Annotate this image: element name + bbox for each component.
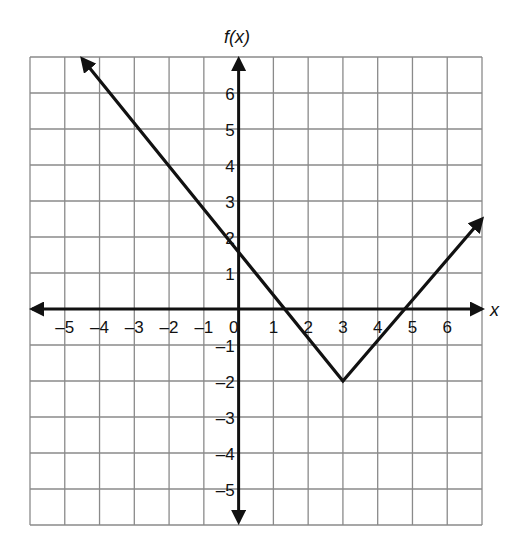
y-tick-label: 1 <box>225 265 234 284</box>
x-tick-label: 4 <box>373 318 382 337</box>
x-tick-label: –3 <box>125 318 144 337</box>
grid <box>30 57 482 525</box>
x-tick-label: –1 <box>194 318 213 337</box>
y-tick-label: –3 <box>216 409 235 428</box>
x-tick-label: 0 <box>229 318 238 337</box>
x-tick-label: 5 <box>408 318 417 337</box>
y-tick-label: 3 <box>225 193 234 212</box>
y-tick-label: 5 <box>225 121 234 140</box>
y-tick-label: –5 <box>216 481 235 500</box>
y-tick-label: –1 <box>216 337 235 356</box>
y-tick-label: 6 <box>225 85 234 104</box>
x-tick-label: 6 <box>442 318 451 337</box>
x-tick-label: –5 <box>55 318 74 337</box>
x-axis-label: x <box>489 300 500 320</box>
x-tick-label: –2 <box>160 318 179 337</box>
y-tick-label: 4 <box>225 157 234 176</box>
x-tick-label: –4 <box>90 318 109 337</box>
tick-labels: –5–4–3–2–10123456654321–1–2–3–4–5 <box>55 85 452 500</box>
function-graph: –5–4–3–2–10123456654321–1–2–3–4–5 x f(x) <box>0 0 523 554</box>
y-axis-label: f(x) <box>224 27 250 47</box>
x-tick-label: 1 <box>269 318 278 337</box>
y-tick-label: –2 <box>216 373 235 392</box>
x-tick-label: 3 <box>338 318 347 337</box>
y-tick-label: –4 <box>216 445 235 464</box>
